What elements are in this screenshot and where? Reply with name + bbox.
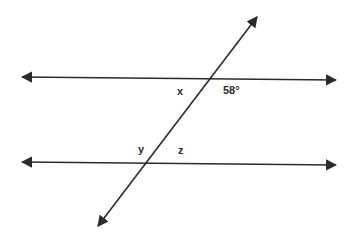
angle-label-z: z xyxy=(178,145,184,156)
angle-label-y: y xyxy=(138,144,144,155)
diagram-lines xyxy=(0,0,350,242)
diagram-canvas: x 58° y z xyxy=(0,0,350,242)
angle-label-x: x xyxy=(177,86,183,97)
top-parallel-line xyxy=(22,77,336,80)
bottom-parallel-line xyxy=(22,162,336,165)
angle-label-58: 58° xyxy=(223,85,240,96)
transversal-line xyxy=(98,17,257,226)
